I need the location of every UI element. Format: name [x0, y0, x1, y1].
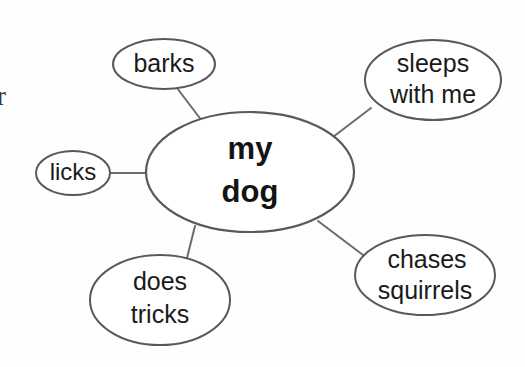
node-barks-label: barks [133, 49, 194, 77]
node-center-label-line1: my [228, 131, 274, 166]
node-does-tricks[interactable]: does tricks [90, 255, 230, 345]
node-sleeps-with-me[interactable]: sleeps with me [365, 40, 501, 120]
node-chases-squirrels-label-line1: chases [387, 245, 466, 273]
node-sleeps-with-me-label-line1: sleeps [397, 49, 469, 77]
word-web-diagram: barks sleeps with me licks does tricks c… [0, 0, 525, 367]
connector-center-to-does-tricks [187, 226, 195, 258]
node-does-tricks-label-line2: tricks [131, 300, 189, 328]
node-chases-squirrels[interactable]: chases squirrels [355, 235, 495, 315]
node-center-label-line2: dog [222, 174, 279, 209]
node-licks[interactable]: licks [36, 151, 110, 195]
node-licks-label: licks [50, 158, 97, 185]
node-sleeps-with-me-label-line2: with me [389, 80, 476, 108]
connector-center-to-chases-squirrels [318, 221, 363, 255]
node-chases-squirrels-label-line2: squirrels [378, 276, 472, 304]
page-margin-letter-artifact: r [0, 81, 6, 111]
diagram-canvas: barks sleeps with me licks does tricks c… [0, 0, 525, 367]
node-center-my-dog[interactable]: my dog [146, 112, 354, 232]
node-center-ellipse [146, 112, 354, 232]
node-does-tricks-label-line1: does [133, 267, 187, 295]
node-barks[interactable]: barks [113, 39, 215, 89]
connector-center-to-barks [177, 88, 202, 121]
connector-center-to-sleeps-with-me [333, 108, 371, 137]
